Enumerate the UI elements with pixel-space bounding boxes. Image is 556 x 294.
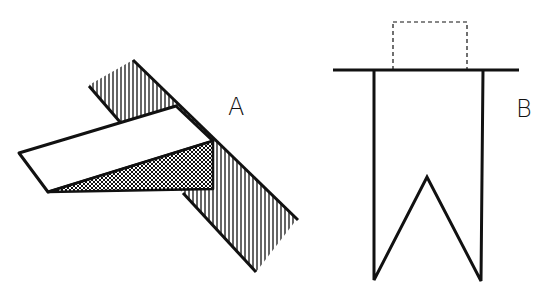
- figure-a: [19, 60, 298, 272]
- label-b: B: [516, 97, 532, 121]
- notched-strip: [374, 70, 483, 281]
- diagram-svg: [0, 0, 556, 294]
- diagram-canvas: A B: [0, 0, 556, 294]
- dashed-box: [393, 22, 467, 70]
- figure-b: [333, 22, 519, 281]
- label-a: A: [228, 95, 244, 119]
